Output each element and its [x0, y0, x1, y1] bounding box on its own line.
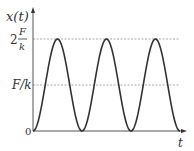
x-axis-label: t — [178, 136, 183, 150]
x-axis-arrow-icon — [181, 129, 187, 133]
y-tick-label-0: 0 — [25, 126, 31, 137]
chart: x(t) t 0 F/k 2 F k — [0, 0, 194, 151]
y-tick-label-2-numerator: F — [18, 26, 27, 37]
y-axis-arrow-icon — [31, 7, 35, 13]
y-tick-label-F-over-k: F/k — [11, 78, 32, 92]
y-axis-label: x(t) — [6, 9, 29, 24]
y-tick-label-2-prefix: 2 — [10, 33, 18, 47]
y-tick-label-2-denominator: k — [19, 41, 25, 52]
